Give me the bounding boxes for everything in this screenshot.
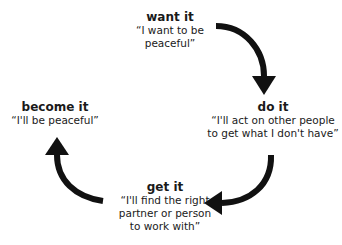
node-title: get it [100, 180, 230, 194]
node-become-it: become it “I'll be peaceful” [0, 100, 110, 127]
node-get-it: get it “I'll find the right partner or p… [100, 180, 230, 233]
node-quote: “I'll find the right partner or person t… [100, 194, 230, 233]
node-title: become it [0, 100, 110, 114]
node-title: do it [198, 100, 342, 114]
node-want-it: want it “I want to be peaceful” [100, 10, 240, 50]
node-title: want it [100, 10, 240, 24]
node-quote: “I'll be peaceful” [0, 114, 110, 127]
node-quote: “I want to be peaceful” [100, 24, 240, 50]
arrow-get-to-become [45, 137, 103, 201]
node-quote: “I'll act on other people to get what I … [198, 114, 342, 140]
node-do-it: do it “I'll act on other people to get w… [198, 100, 342, 140]
